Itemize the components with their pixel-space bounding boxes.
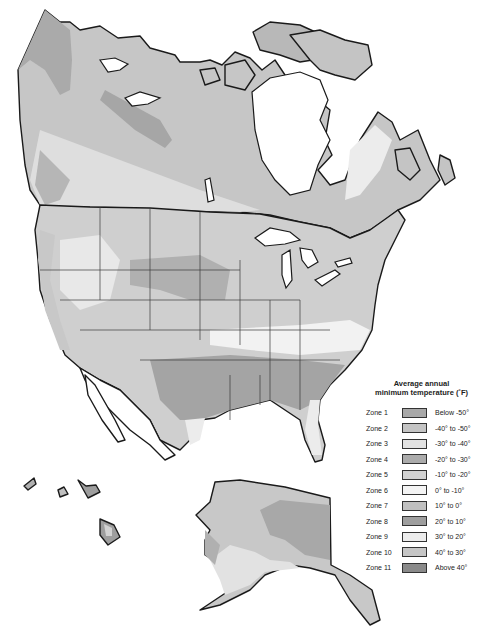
zone-swatch [402, 547, 427, 557]
zone-label: Zone 9 [362, 533, 402, 540]
zone-label: Zone 5 [362, 471, 402, 478]
zone-range: 20° to 10° [435, 518, 466, 525]
zone-label: Zone 4 [362, 456, 402, 463]
zone-range: 30° to 20° [435, 533, 466, 540]
zone-swatch [402, 408, 427, 418]
zone-range: 40° to 30° [435, 549, 466, 556]
zone-label: Zone 7 [362, 502, 402, 509]
canada-landmass [18, 10, 440, 238]
zone-label: Zone 11 [362, 564, 402, 571]
zone-label: Zone 2 [362, 425, 402, 432]
legend-row-zone-10: Zone 1040° to 30° [362, 545, 481, 561]
contiguous-us-landmass [35, 205, 405, 462]
legend-row-zone-7: Zone 710° to 0° [362, 498, 481, 514]
zone-swatch [402, 454, 427, 464]
legend: Average annual minimum temperature (˚F) … [362, 379, 481, 576]
legend-row-zone-6: Zone 60° to -10° [362, 483, 481, 499]
legend-title: Average annual minimum temperature (˚F) [362, 379, 481, 397]
legend-row-zone-5: Zone 5-10° to -20° [362, 467, 481, 483]
alaska-landmass [196, 480, 380, 625]
legend-row-zone-1: Zone 1Below -50° [362, 405, 481, 421]
zone-label: Zone 8 [362, 518, 402, 525]
legend-row-zone-2: Zone 2-40° to -50° [362, 421, 481, 437]
legend-title-line1: Average annual [362, 379, 481, 388]
zone-swatch [402, 485, 427, 495]
legend-rows: Zone 1Below -50° Zone 2-40° to -50° Zone… [362, 405, 481, 576]
zone-range: 10° to 0° [435, 502, 462, 509]
zone-label: Zone 1 [362, 409, 402, 416]
legend-row-zone-11: Zone 11Above 40° [362, 560, 481, 576]
zone-swatch [402, 470, 427, 480]
zone-range: -30° to -40° [435, 440, 471, 447]
zone-swatch [402, 501, 427, 511]
zone-range: -20° to -30° [435, 456, 471, 463]
zone-range: 0° to -10° [435, 487, 464, 494]
zone-swatch [402, 563, 427, 573]
zone-swatch [402, 516, 427, 526]
legend-row-zone-9: Zone 930° to 20° [362, 529, 481, 545]
zone-swatch [402, 532, 427, 542]
zone-label: Zone 3 [362, 440, 402, 447]
legend-title-line2: minimum temperature (˚F) [362, 388, 481, 397]
legend-row-zone-3: Zone 3-30° to -40° [362, 436, 481, 452]
zone-label: Zone 6 [362, 487, 402, 494]
zone-label: Zone 10 [362, 549, 402, 556]
zone-range: Below -50° [435, 409, 469, 416]
zone-range: -10° to -20° [435, 471, 471, 478]
zone-range: Above 40° [435, 564, 467, 571]
zone-swatch [402, 439, 427, 449]
hawaii-islands [24, 478, 120, 545]
zone-swatch [402, 423, 427, 433]
legend-row-zone-4: Zone 4-20° to -30° [362, 452, 481, 468]
legend-row-zone-8: Zone 820° to 10° [362, 514, 481, 530]
zone-range: -40° to -50° [435, 425, 471, 432]
